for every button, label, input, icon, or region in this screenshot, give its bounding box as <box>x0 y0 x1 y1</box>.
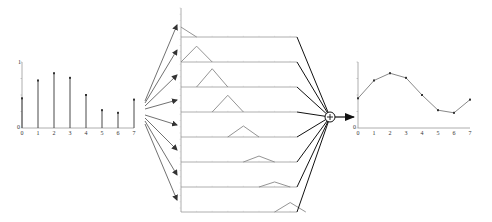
fan-out-arrow <box>145 25 177 101</box>
input-stem-plot: 1001234567 <box>17 59 136 136</box>
x-tick-label: 3 <box>405 130 408 136</box>
triangle-basis <box>197 69 228 87</box>
stem-point <box>85 94 87 96</box>
data-point <box>421 94 423 96</box>
x-tick-label: 2 <box>389 130 392 136</box>
data-point <box>469 99 471 101</box>
data-point <box>389 72 391 74</box>
triangle-basis <box>228 126 259 137</box>
x-tick-label: 5 <box>101 130 104 136</box>
data-point <box>437 109 439 111</box>
fan-in-line <box>297 117 330 162</box>
stem-point <box>101 109 103 111</box>
x-tick-label: 4 <box>421 130 424 136</box>
stem-point <box>37 79 39 81</box>
data-point <box>405 77 407 79</box>
decomposition-diagram: 1001234567 001234567 <box>0 0 492 222</box>
triangle-basis <box>212 95 243 112</box>
triangle-basis <box>181 46 212 62</box>
fan-in-line <box>297 117 330 212</box>
x-tick-label: 7 <box>133 130 136 136</box>
fan-out-arrow <box>145 118 177 150</box>
y-label-top: 1 <box>18 59 21 65</box>
x-tick-label: 2 <box>53 130 56 136</box>
fan-in-line <box>297 37 330 117</box>
output-line-plot: 001234567 <box>353 62 472 136</box>
fan-out-arrow <box>145 124 177 200</box>
data-point <box>357 97 359 99</box>
triangle-basis <box>275 203 306 212</box>
data-point <box>373 79 375 81</box>
x-tick-label: 6 <box>453 130 456 136</box>
fan-out-arrow <box>145 121 177 175</box>
fan-out-arrow <box>145 50 177 103</box>
stem-point <box>133 99 135 101</box>
fan-in-line <box>297 62 330 117</box>
fan-out-arrow <box>145 115 177 125</box>
triangle-basis <box>181 27 197 37</box>
x-tick-label: 7 <box>469 130 472 136</box>
x-tick-label: 0 <box>357 130 360 136</box>
x-tick-label: 4 <box>85 130 88 136</box>
stem-point <box>117 112 119 114</box>
fan-out-arrows <box>145 25 177 200</box>
x-tick-label: 5 <box>437 130 440 136</box>
reconstructed-line <box>358 73 470 113</box>
stem-point <box>69 77 71 79</box>
stem-point <box>21 97 23 99</box>
basis-function-panels <box>180 8 306 212</box>
stem-point <box>53 72 55 74</box>
x-tick-label: 1 <box>373 130 376 136</box>
data-point <box>453 112 455 114</box>
x-tick-label: 1 <box>37 130 40 136</box>
fan-in-lines <box>297 37 330 212</box>
x-tick-label: 0 <box>21 130 24 136</box>
sum-node <box>325 112 354 122</box>
x-tick-label: 6 <box>117 130 120 136</box>
x-tick-label: 3 <box>69 130 72 136</box>
